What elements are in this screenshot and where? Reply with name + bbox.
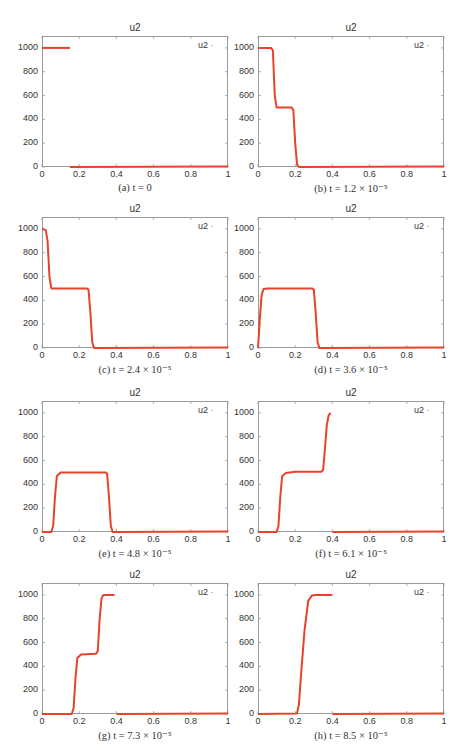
line-series-u2 (216, 14, 452, 185)
line-series-u2 (216, 195, 452, 366)
line-series-u2 (0, 379, 236, 550)
subplot-caption: (g) t = 7.3 × 10⁻⁵ (42, 729, 228, 741)
subplot-caption: (b) t = 1.2 × 10⁻⁵ (258, 182, 444, 194)
line-series-u2 (216, 561, 452, 732)
line-series-u2 (216, 379, 452, 550)
subplot-b: u20200400600800100000.20.40.60.81u2 ·(b)… (216, 14, 452, 207)
subplot-caption: (c) t = 2.4 × 10⁻⁵ (42, 363, 228, 375)
subplot-e: u20200400600800100000.20.40.60.81u2 ·(e)… (0, 379, 236, 572)
subplot-h: u20200400600800100000.20.40.60.81u2 ·(h)… (216, 561, 452, 747)
subplot-caption: (f) t = 6.1 × 10⁻⁵ (258, 547, 444, 559)
subplot-caption: (d) t = 3.6 × 10⁻⁵ (258, 363, 444, 375)
line-series-u2 (0, 14, 236, 185)
subplot-caption: (h) t = 8.5 × 10⁻⁵ (258, 729, 444, 741)
subplot-g: u20200400600800100000.20.40.60.81u2 ·(g)… (0, 561, 236, 747)
subplot-c: u20200400600800100000.20.40.60.81u2 ·(c)… (0, 195, 236, 388)
subplot-d: u20200400600800100000.20.40.60.81u2 ·(d)… (216, 195, 452, 388)
line-series-u2 (0, 195, 236, 366)
subplot-a: u20200400600800100000.20.40.60.81u2 ·(a)… (0, 14, 236, 207)
line-series-u2 (0, 561, 236, 732)
subplot-caption: (a) t = 0 (42, 182, 228, 193)
subplot-caption: (e) t = 4.8 × 10⁻⁵ (42, 547, 228, 559)
subplot-f: u20200400600800100000.20.40.60.81u2 ·(f)… (216, 379, 452, 572)
